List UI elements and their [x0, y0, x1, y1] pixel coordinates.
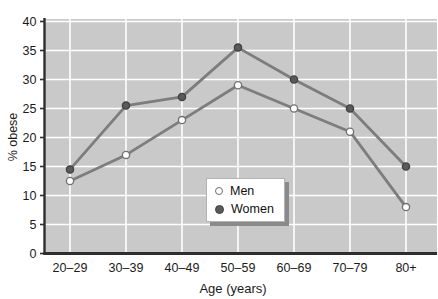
chart-canvas: 051015202530354020–2930–3940–4950–5960–6… [0, 0, 438, 299]
x-tick-label: 80+ [395, 261, 416, 275]
y-tick-label: 30 [23, 73, 37, 87]
men-open-circle-icon [215, 187, 223, 195]
data-point-men [290, 105, 297, 112]
data-point-women [122, 102, 129, 109]
data-point-women [402, 163, 409, 170]
obesity-by-age-line-chart: 051015202530354020–2930–3940–4950–5960–6… [0, 0, 438, 299]
legend-item-women: Women [215, 202, 274, 216]
data-point-women [66, 166, 73, 173]
data-point-women [234, 44, 241, 51]
y-tick-label: 40 [23, 15, 37, 29]
x-tick-label: 20–29 [53, 261, 88, 275]
data-point-men [234, 82, 241, 89]
y-axis-title: % obese [6, 113, 20, 162]
legend-label-women: Women [231, 202, 274, 216]
data-point-women [178, 93, 185, 100]
legend: Men Women [206, 178, 285, 222]
y-tick-label: 15 [23, 160, 37, 174]
y-tick-label: 5 [30, 218, 37, 232]
x-tick-label: 70–79 [333, 261, 368, 275]
data-point-men [346, 128, 353, 135]
data-point-men [122, 151, 129, 158]
x-tick-label: 60–69 [277, 261, 312, 275]
y-tick-label: 20 [23, 131, 37, 145]
legend-item-men: Men [215, 184, 274, 198]
women-filled-circle-icon [215, 205, 224, 214]
data-point-men [402, 204, 409, 211]
y-tick-label: 10 [23, 189, 37, 203]
x-tick-label: 30–39 [109, 261, 144, 275]
x-axis-title: Age (years) [199, 281, 266, 296]
x-tick-label: 50–59 [221, 261, 256, 275]
data-point-men [178, 117, 185, 124]
data-point-women [290, 76, 297, 83]
data-point-women [346, 105, 353, 112]
y-tick-label: 25 [23, 102, 37, 116]
x-tick-label: 40–49 [165, 261, 200, 275]
y-tick-label: 35 [23, 44, 37, 58]
y-tick-label: 0 [30, 247, 37, 261]
data-point-men [66, 177, 73, 184]
legend-label-men: Men [230, 184, 254, 198]
